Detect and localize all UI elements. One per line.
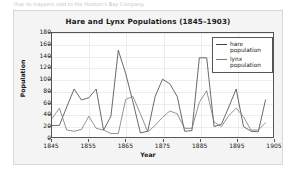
chart-legend: hare populationlynx population [212,37,273,73]
x-axis-ticks: 1845185518651875188518951905 [51,139,274,151]
surrounding-body-text: that its trappers sold to the Hudson's B… [14,0,280,9]
legend-item: hare population [216,41,268,54]
x-tick-label: 1875 [148,142,178,149]
x-tick-mark [274,139,275,142]
x-axis-label: Year [14,151,282,158]
series-line-lynx [52,91,266,134]
x-tick-mark [163,139,164,142]
x-tick-label: 1845 [36,142,66,149]
y-axis-ticks: 180160140120100806040200 [22,32,51,138]
legend-line-swatch [216,59,227,60]
x-tick-label: 1885 [185,142,215,149]
chart-figure-card: Hare and Lynx Populations (1845–1903) Po… [13,10,283,165]
chart-title: Hare and Lynx Populations (1845–1903) [14,17,282,26]
x-tick-mark [125,139,126,142]
x-tick-label: 1855 [73,142,103,149]
x-tick-label: 1865 [110,142,140,149]
x-tick-label: 1905 [259,142,289,149]
legend-label: hare population [230,41,268,54]
legend-label: lynx population [230,56,268,69]
figure-page: that its trappers sold to the Hudson's B… [0,0,295,178]
x-tick-label: 1895 [222,142,252,149]
x-tick-mark [200,139,201,142]
legend-line-swatch [216,44,227,45]
x-tick-mark [237,139,238,142]
legend-item: lynx population [216,56,268,69]
x-tick-mark [88,139,89,142]
x-tick-mark [51,139,52,142]
